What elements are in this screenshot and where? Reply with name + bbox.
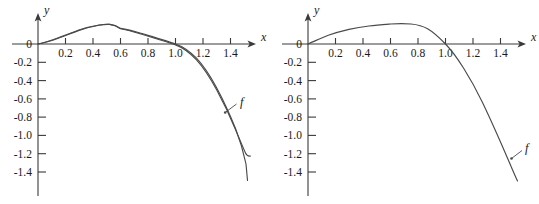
y-tick-label: -1.2 <box>14 148 32 160</box>
y-tick-label: -1.0 <box>14 129 32 141</box>
two-panel-function-plot-figure: 0.2 0.4 0.6 0.8 1.0 1.2 1.4 0 -0.2 -0.4 … <box>0 0 539 204</box>
y-axis-title: y <box>43 3 50 17</box>
plot-canvas-right: 0.2 0.4 0.6 0.8 1.0 1.2 1.4 0 -0.2 -0.4 … <box>270 0 539 204</box>
y-axis-right <box>305 13 312 196</box>
x-tick-label: 0.8 <box>141 47 156 59</box>
x-tick-label: 0.4 <box>356 47 371 59</box>
x-axis-title: x <box>530 30 537 44</box>
y-tick-label: -1.2 <box>284 148 302 160</box>
curve-label-f-right: f <box>525 141 530 155</box>
y-tick-label: -0.8 <box>14 111 32 123</box>
plot-canvas-left: 0.2 0.4 0.6 0.8 1.0 1.2 1.4 0 -0.2 -0.4 … <box>0 0 270 204</box>
curve-label-leader-right <box>510 151 522 160</box>
x-tick-label: 0.6 <box>383 47 398 59</box>
x-axis-title: x <box>260 30 267 44</box>
y-tick-label: -1.4 <box>14 166 32 178</box>
x-tick-label: 0.6 <box>113 47 128 59</box>
y-tick-label: -0.4 <box>284 75 302 87</box>
y-tick-marks-left <box>38 62 46 172</box>
plot-panel-left: 0.2 0.4 0.6 0.8 1.0 1.2 1.4 0 -0.2 -0.4 … <box>0 0 270 204</box>
x-tick-marks-left <box>66 38 231 44</box>
y-axis-left <box>35 13 42 196</box>
y-tick-labels-left: 0 -0.2 -0.4 -0.6 -0.8 -1.0 -1.2 -1.4 <box>14 38 32 178</box>
x-tick-label: 0.4 <box>86 47 101 59</box>
y-tick-label: -1.4 <box>284 166 302 178</box>
y-tick-label: -0.6 <box>14 93 32 105</box>
x-tick-label: 1.0 <box>438 47 453 59</box>
plot-panel-right: 0.2 0.4 0.6 0.8 1.0 1.2 1.4 0 -0.2 -0.4 … <box>270 0 539 204</box>
x-tick-label: 1.2 <box>466 47 481 59</box>
y-tick-label: 0 <box>296 38 302 50</box>
x-tick-label: 1.0 <box>168 47 183 59</box>
x-tick-label: 1.4 <box>493 47 508 59</box>
x-tick-label: 0.8 <box>411 47 426 59</box>
x-tick-label: 1.4 <box>223 47 238 59</box>
y-axis-title: y <box>313 3 320 17</box>
x-axis-right <box>282 41 526 48</box>
y-tick-marks-right <box>308 62 316 172</box>
y-tick-label: -1.0 <box>284 129 302 141</box>
y-tick-label: -0.2 <box>284 56 302 68</box>
x-tick-labels-right: 0.2 0.4 0.6 0.8 1.0 1.2 1.4 <box>328 47 508 59</box>
x-tick-marks-right <box>336 38 501 44</box>
y-tick-label: 0 <box>26 38 32 50</box>
x-tick-label: 0.2 <box>328 47 343 59</box>
y-tick-label: -0.8 <box>284 111 302 123</box>
curve-label-f-left: f <box>240 95 245 109</box>
y-tick-label: -0.2 <box>14 56 32 68</box>
x-tick-label: 0.2 <box>58 47 73 59</box>
y-tick-label: -0.4 <box>14 75 32 87</box>
x-tick-label: 1.2 <box>196 47 211 59</box>
y-tick-label: -0.6 <box>284 93 302 105</box>
x-tick-labels-left: 0.2 0.4 0.6 0.8 1.0 1.2 1.4 <box>58 47 238 59</box>
y-tick-labels-right: 0 -0.2 -0.4 -0.6 -0.8 -1.0 -1.2 -1.4 <box>284 38 302 178</box>
